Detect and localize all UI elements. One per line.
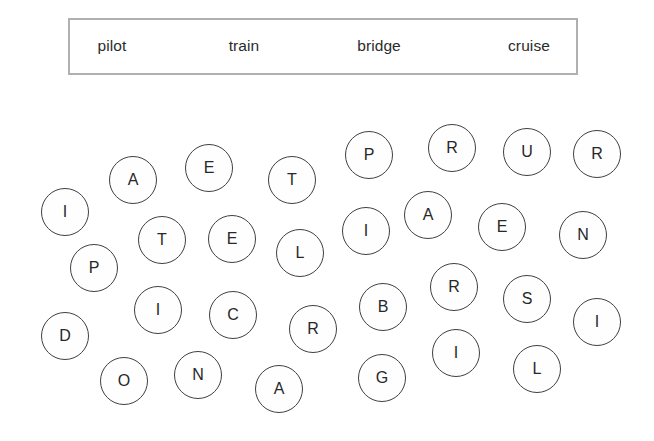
letter-circle[interactable]: I [432,329,480,377]
word-bank-item-pilot[interactable]: pilot [98,38,127,54]
letter-circle-label: R [591,146,603,162]
letter-circle[interactable]: I [41,188,89,236]
letter-circle[interactable]: S [503,275,551,323]
letter-circle[interactable]: P [70,244,118,292]
letter-circle-label: T [287,172,297,188]
letter-circle[interactable]: R [428,124,476,172]
word-bank-box [68,18,578,75]
letter-circle-label: P [89,260,100,276]
letter-circle[interactable]: E [185,144,233,192]
letter-circle[interactable]: A [109,156,157,204]
letter-circle[interactable]: I [342,207,390,255]
letter-circle-label: E [497,219,508,235]
letter-circle[interactable]: N [174,351,222,399]
letter-circle[interactable]: T [268,156,316,204]
letter-circle-label: C [227,307,239,323]
letter-circle-label: A [274,381,285,397]
letter-circle-label: G [376,370,388,386]
letter-circle-label: N [192,367,204,383]
letter-circle-label: L [296,245,305,261]
word-bank-item-cruise[interactable]: cruise [508,38,550,54]
word-bank-item-train[interactable]: train [229,38,260,54]
letter-circle-label: I [364,223,368,239]
word-search-canvas: pilottrainbridgecruise IAETPRURTELIAENPI… [0,0,654,441]
letter-circle-label: I [454,345,458,361]
letter-circle[interactable]: R [573,130,621,178]
letter-circle[interactable]: L [513,345,561,393]
letter-circle[interactable]: B [359,283,407,331]
letter-circle[interactable]: I [573,298,621,346]
letter-circle-label: I [156,302,160,318]
letter-circle-label: A [423,207,434,223]
letter-circle[interactable]: R [430,263,478,311]
letter-circle-label: E [204,160,215,176]
letter-circle[interactable]: O [100,357,148,405]
letter-circle-label: D [59,328,71,344]
letter-circle-label: R [446,140,458,156]
letter-circle[interactable]: E [208,215,256,263]
letter-circle-label: N [577,227,589,243]
letter-circle[interactable]: E [478,203,526,251]
letter-circle[interactable]: P [345,131,393,179]
letter-circle[interactable]: L [276,229,324,277]
letter-circle-label: B [378,299,389,315]
letter-circle-label: I [63,204,67,220]
letter-circle[interactable]: T [138,216,186,264]
letter-circle-label: U [521,144,533,160]
letter-circle-label: A [128,172,139,188]
letter-circle[interactable]: U [503,128,551,176]
letter-circle-label: S [522,291,533,307]
word-bank-item-bridge[interactable]: bridge [357,38,401,54]
letter-circle[interactable]: D [41,312,89,360]
letter-circle[interactable]: I [134,286,182,334]
letter-circle[interactable]: R [289,305,337,353]
letter-circle-label: R [448,279,460,295]
letter-circle-label: I [595,314,599,330]
letter-circle[interactable]: C [209,291,257,339]
letter-circle-label: T [157,232,167,248]
letter-circle[interactable]: N [559,211,607,259]
letter-circle-label: P [364,147,375,163]
letter-circle[interactable]: G [358,354,406,402]
letter-circle-label: O [118,373,130,389]
letter-circle-label: R [307,321,319,337]
letter-circle-label: E [227,231,238,247]
letter-circle[interactable]: A [404,191,452,239]
letter-circle-label: L [533,361,542,377]
letter-circle[interactable]: A [255,365,303,413]
